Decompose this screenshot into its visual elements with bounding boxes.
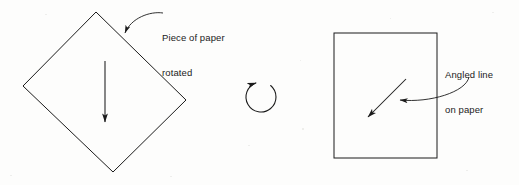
callout-label-angled-line2: on paper xyxy=(445,104,493,116)
callout-label-rotated: Piece of paper rotated xyxy=(162,9,225,101)
upright-paper-shape xyxy=(334,33,437,158)
callout-label-rotated-line1: Piece of paper xyxy=(162,32,225,44)
angled-line-arrow xyxy=(368,79,406,117)
diagram-figure: Piece of paper rotated Angled line on pa… xyxy=(0,0,519,185)
callout-label-rotated-line2: rotated xyxy=(162,67,225,79)
callout-leader-rotated xyxy=(125,13,163,33)
callout-label-angled: Angled line on paper xyxy=(445,46,493,138)
callout-label-angled-line1: Angled line xyxy=(445,69,493,81)
rotation-arrow-icon xyxy=(246,83,276,112)
diagram-canvas xyxy=(0,0,519,185)
